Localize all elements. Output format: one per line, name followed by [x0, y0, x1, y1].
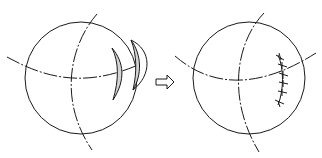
equator-line [175, 53, 316, 80]
suture-stitch [278, 62, 287, 69]
right-arrow-icon [156, 75, 174, 89]
sutures [275, 53, 288, 107]
meridian-line [71, 14, 97, 150]
globe-after [175, 13, 316, 152]
diagram-canvas [0, 0, 322, 158]
meridian-line [239, 13, 264, 152]
suture-stitch [278, 89, 287, 96]
suture-stitch [279, 71, 288, 79]
transition-arrow [156, 75, 174, 89]
suture-stitch [279, 80, 288, 87]
globe-before [7, 14, 147, 150]
globe-outline [193, 22, 305, 134]
